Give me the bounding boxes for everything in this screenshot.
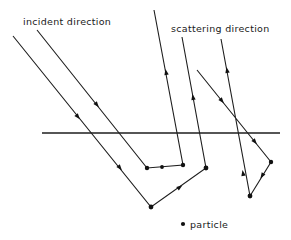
legend: particle — [181, 219, 228, 230]
path-1 — [37, 10, 185, 170]
particle-dot — [145, 166, 149, 170]
particle-dot — [160, 165, 164, 169]
legend-particle-dot — [181, 222, 185, 226]
scattering-direction-label: scattering direction — [171, 23, 270, 34]
arrow-icon — [163, 69, 168, 76]
path-1-ray — [37, 10, 183, 168]
scattering-diagram: incident direction scattering direction — [0, 0, 291, 240]
particle-dot — [149, 205, 154, 210]
particle-dot — [181, 163, 185, 167]
path-3-ray — [197, 39, 271, 196]
particle-dot — [248, 194, 253, 199]
legend-particle-label: particle — [190, 219, 228, 230]
particle-dot — [269, 160, 273, 164]
path-3 — [197, 39, 273, 198]
incident-direction-label: incident direction — [23, 16, 111, 27]
particle-dot — [204, 166, 209, 171]
arrow-icon — [224, 67, 229, 74]
